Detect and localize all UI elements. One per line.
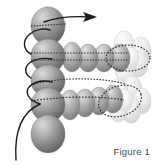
molecular-fiber-diagram xyxy=(0,0,157,166)
figure-caption: Figure 1 xyxy=(0,146,150,158)
figure-container: Figure 1 xyxy=(0,0,157,166)
